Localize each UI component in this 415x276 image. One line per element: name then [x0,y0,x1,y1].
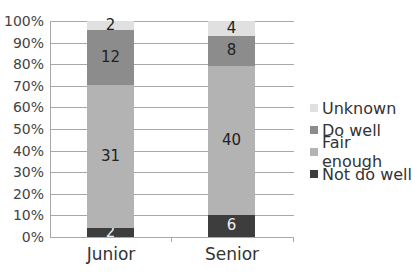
y-tick-label: 80% [0,57,44,71]
segment-not-do-well: 2 [87,228,134,237]
y-tick-label: 0% [0,230,44,244]
legend-item-not-do-well: Not do well [310,163,415,185]
x-label-senior: Senior [187,244,277,264]
x-axis-line [50,237,294,238]
y-tick-label: 50% [0,122,44,136]
segment-not-do-well: 6 [208,215,255,237]
legend-item-fair-enough: Fair enough [310,141,415,163]
y-tick-label: 90% [0,36,44,50]
segment-fair-enough: 31 [87,85,134,228]
segment-do-well: 12 [87,30,134,85]
segment-fair-enough: 40 [208,66,255,215]
swatch-icon [310,104,318,112]
y-axis-line [50,21,51,238]
y-tick-label: 100% [0,14,44,28]
segment-do-well: 8 [208,36,255,66]
bar-senior: 6 40 8 4 [208,21,255,237]
y-tick-label: 40% [0,144,44,158]
legend-item-unknown: Unknown [310,97,415,119]
y-tick-label: 30% [0,165,44,179]
swatch-icon [310,148,318,156]
x-label-junior: Junior [66,244,156,264]
swatch-icon [310,170,318,178]
x-tick [293,237,294,242]
swatch-icon [310,126,318,134]
y-tick-label: 60% [0,100,44,114]
y-tick-label: 10% [0,208,44,222]
x-tick [171,237,172,242]
bar-junior: 2 31 12 2 [87,21,134,237]
y-tick-label: 20% [0,187,44,201]
segment-unknown: 2 [87,21,134,30]
legend: Unknown Do well Fair enough Not do well [310,97,415,185]
segment-unknown: 4 [208,21,255,36]
y-tick-label: 70% [0,79,44,93]
